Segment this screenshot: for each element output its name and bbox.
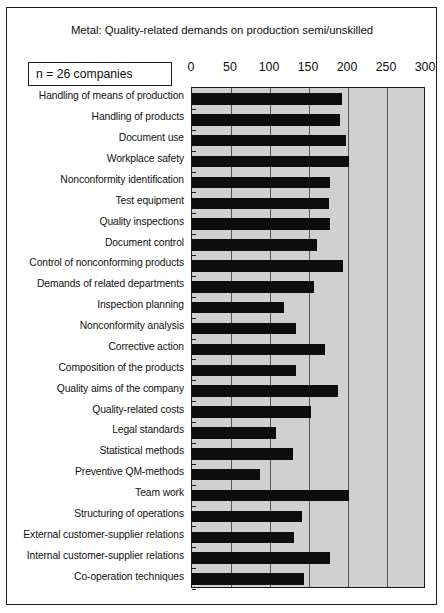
y-tickmark — [192, 443, 196, 444]
category-label: Quality-related costs — [92, 404, 184, 415]
category-label: Workplace safety — [107, 153, 184, 164]
y-tickmark — [192, 151, 196, 152]
y-tickmark — [192, 276, 196, 277]
x-tick-0: 0 — [188, 60, 195, 74]
category-label: Document use — [119, 132, 184, 143]
y-tickmark — [192, 568, 196, 569]
category-label: Inspection planning — [97, 299, 184, 310]
category-label: Composition of the products — [58, 362, 184, 373]
category-label: Quality aims of the company — [57, 383, 184, 394]
y-tickmark — [192, 359, 196, 360]
x-tick-50: 50 — [223, 60, 237, 74]
y-tickmark — [192, 297, 196, 298]
y-axis-category-labels: Handling of means of productionHandling … — [8, 87, 188, 588]
category-label: Handling of products — [92, 111, 184, 122]
y-tickmark — [192, 234, 196, 235]
bar — [192, 218, 330, 230]
category-label: Demands of related departments — [37, 278, 184, 289]
bar — [192, 281, 314, 293]
plot-area — [191, 87, 425, 588]
bar — [192, 135, 346, 147]
sample-size-label: n = 26 companies — [36, 67, 133, 81]
bar — [192, 156, 349, 168]
bar — [192, 406, 311, 418]
category-label: Quality inspections — [99, 216, 184, 227]
y-tickmark — [192, 547, 196, 548]
bar — [192, 469, 260, 481]
bar — [192, 532, 294, 544]
category-label: Test equipment — [116, 195, 184, 206]
bar — [192, 552, 330, 564]
category-label: Statistical methods — [99, 445, 184, 456]
category-label: Document control — [105, 237, 184, 248]
category-label: Preventive QM-methods — [75, 466, 184, 477]
chart-figure: Metal: Quality-related demands on produc… — [0, 0, 444, 613]
sample-size-box: n = 26 companies — [28, 62, 172, 86]
y-tickmark — [192, 422, 196, 423]
y-tickmark — [192, 464, 196, 465]
bar — [192, 239, 317, 251]
y-tickmark — [192, 172, 196, 173]
category-label: Structuring of operations — [74, 508, 184, 519]
y-tickmark — [192, 130, 196, 131]
y-tickmark — [192, 213, 196, 214]
y-tickmark — [192, 380, 196, 381]
bar — [192, 448, 293, 460]
y-tickmark — [192, 192, 196, 193]
category-label: Corrective action — [108, 341, 184, 352]
bar — [192, 260, 343, 272]
y-tickmark — [192, 526, 196, 527]
page-title: Metal: Quality-related demands on produc… — [0, 24, 444, 36]
y-tickmark — [192, 255, 196, 256]
x-tick-150: 150 — [298, 60, 319, 74]
category-label: External customer-supplier relations — [23, 529, 184, 540]
category-label: Legal standards — [112, 424, 184, 435]
category-label: Internal customer-supplier relations — [27, 550, 184, 561]
category-label: Nonconformity identification — [60, 174, 184, 185]
category-label: Co-operation techniques — [74, 571, 184, 582]
x-tick-300: 300 — [415, 60, 436, 74]
x-tick-250: 250 — [376, 60, 397, 74]
bar — [192, 511, 302, 523]
bar — [192, 385, 338, 397]
y-tickmark — [192, 339, 196, 340]
bar — [192, 490, 349, 502]
category-label: Control of nonconforming products — [29, 257, 184, 268]
bar — [192, 302, 284, 314]
y-tickmark — [192, 589, 196, 590]
bar — [192, 93, 342, 105]
x-tick-200: 200 — [337, 60, 358, 74]
y-tickmark — [192, 318, 196, 319]
bar — [192, 573, 304, 585]
category-label: Handling of means of production — [39, 90, 184, 101]
bar — [192, 323, 296, 335]
bar — [192, 177, 330, 189]
bar — [192, 365, 296, 377]
bar — [192, 114, 340, 126]
bar-series — [192, 88, 424, 587]
y-tickmark — [192, 506, 196, 507]
category-label: Team work — [135, 487, 184, 498]
x-tick-100: 100 — [259, 60, 280, 74]
category-label: Nonconformity analysis — [80, 320, 184, 331]
y-tickmark — [192, 401, 196, 402]
bar — [192, 427, 276, 439]
bar — [192, 198, 329, 210]
bar — [192, 344, 325, 356]
y-tickmark — [192, 109, 196, 110]
y-tickmark — [192, 485, 196, 486]
